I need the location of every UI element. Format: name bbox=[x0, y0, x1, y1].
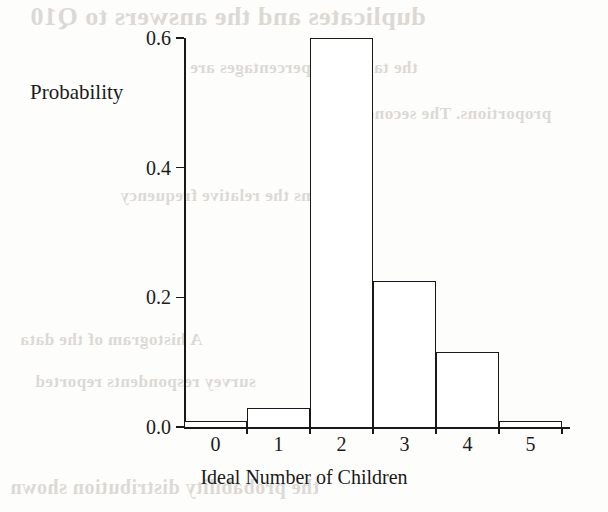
x-axis-tick bbox=[435, 427, 436, 434]
x-axis-tick bbox=[561, 427, 562, 434]
x-axis-tick-label: 0 bbox=[184, 434, 247, 454]
y-axis-tick-label: 0.6 bbox=[146, 28, 171, 48]
histogram-bar bbox=[499, 421, 562, 427]
plot-area: 0.00.20.40.6012345 bbox=[184, 30, 570, 428]
histogram-bar bbox=[436, 352, 499, 427]
x-axis-tick-label: 3 bbox=[373, 434, 436, 454]
y-axis-label: Probability bbox=[30, 82, 123, 103]
x-axis-tick-label: 1 bbox=[247, 434, 310, 454]
x-axis-tick bbox=[309, 427, 310, 434]
x-axis-tick-label: 5 bbox=[499, 434, 562, 454]
x-axis-label: Ideal Number of Children bbox=[0, 466, 608, 489]
y-axis-tick: 0.2 bbox=[176, 297, 184, 298]
x-axis-tick bbox=[372, 427, 373, 434]
histogram-figure: Probability 0.00.20.40.6012345 Ideal Num… bbox=[0, 0, 608, 512]
y-axis-tick: 0.4 bbox=[176, 167, 184, 168]
y-axis-tick-label: 0.2 bbox=[146, 287, 171, 307]
x-axis-tick bbox=[498, 427, 499, 434]
y-axis-tick: 0.6 bbox=[176, 37, 184, 38]
y-axis-tick-label: 0.4 bbox=[146, 157, 171, 177]
histogram-bar bbox=[310, 38, 373, 427]
y-axis-tick-label: 0.0 bbox=[146, 417, 171, 437]
x-axis-spine bbox=[184, 427, 570, 429]
x-axis-tick-label: 4 bbox=[436, 434, 499, 454]
x-axis-tick bbox=[246, 427, 247, 434]
y-axis-tick: 0.0 bbox=[176, 426, 184, 427]
histogram-bar bbox=[247, 408, 310, 427]
histogram-bar bbox=[373, 281, 436, 427]
histogram-bar bbox=[184, 421, 247, 427]
y-axis-spine bbox=[184, 38, 186, 428]
x-axis-tick-label: 2 bbox=[310, 434, 373, 454]
